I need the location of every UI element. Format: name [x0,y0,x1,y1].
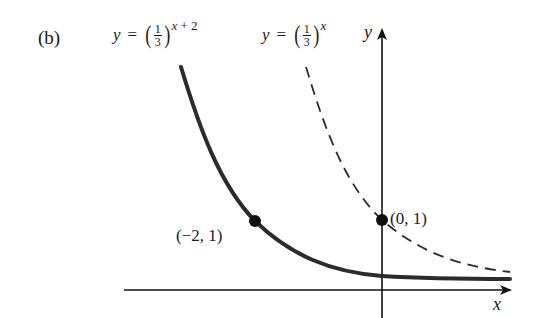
formula-lhs: y [113,25,121,45]
formula-lhs: y [262,25,270,45]
fraction-denominator: 3 [304,36,310,48]
fraction: 1 3 [303,23,311,48]
point-0-1 [376,214,388,226]
point-neg2-1 [249,215,261,227]
right-paren: ) [164,20,170,50]
fraction-denominator: 3 [155,36,161,48]
solid-curve-shifted [181,67,510,279]
formula-equals: = [128,25,138,45]
exponent: x + 2 [171,18,197,34]
x-axis-label: x [493,294,501,315]
left-paren: ( [145,20,151,50]
formula-base: y = ( 1 3 ) x [262,20,326,50]
panel-label: (b) [38,27,60,49]
point-label-neg2-1: (−2, 1) [176,226,222,246]
exponent-var: x [320,18,326,33]
exponent-rest: + 2 [177,18,197,33]
y-axis-label: y [364,22,372,43]
formula-equals: = [277,25,287,45]
dashed-curve-base [306,67,510,272]
fraction-numerator: 1 [303,23,311,36]
fraction-numerator: 1 [154,23,162,36]
right-paren: ) [313,20,319,50]
fraction: 1 3 [154,23,162,48]
formula-shifted: y = ( 1 3 ) x + 2 [113,20,198,50]
point-label-0-1: (0, 1) [390,209,427,229]
exponent: x [320,18,326,34]
left-paren: ( [294,20,300,50]
